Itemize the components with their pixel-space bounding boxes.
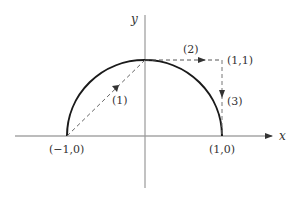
point-label-neg1-0: (−1,0) xyxy=(49,143,84,156)
path-3-label: (3) xyxy=(227,95,243,108)
x-axis-label: x xyxy=(279,129,286,143)
path-1-dashed xyxy=(67,60,145,136)
diagram-canvas: x y (1) (2) (3) (−1,0) (1,0) (1,1) xyxy=(0,0,299,197)
path-3-arrow-icon xyxy=(219,90,225,98)
path-2-label: (2) xyxy=(183,43,199,56)
y-axis-label: y xyxy=(130,12,138,26)
path-3-dashed xyxy=(219,60,225,136)
path-2-arrow-icon xyxy=(198,57,206,63)
path-1-label: (1) xyxy=(112,94,128,107)
point-label-1-1: (1,1) xyxy=(227,54,253,67)
point-label-1-0: (1,0) xyxy=(209,143,235,156)
